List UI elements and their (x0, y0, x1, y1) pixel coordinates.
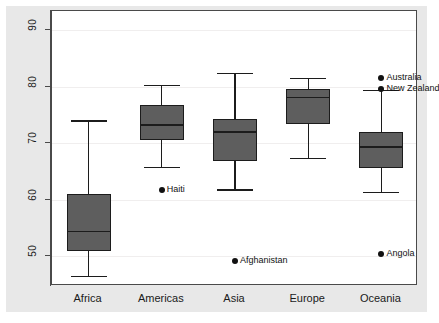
y-axis-tick (45, 255, 50, 256)
median-line (359, 146, 403, 148)
outlier-label-afghanistan: Afghanistan (240, 255, 288, 265)
y-axis-tick-label: 60 (27, 189, 43, 201)
y-axis-tick (45, 29, 50, 30)
y-axis-tick (45, 86, 50, 87)
outlier-label-new-zealand: New Zealand (386, 83, 439, 93)
x-axis-label-oceania: Oceania (340, 292, 420, 304)
y-axis-tick (45, 199, 50, 200)
whisker-cap-lower (363, 192, 399, 193)
box-rect (359, 132, 403, 169)
y-axis-tick-label: 70 (27, 132, 43, 144)
whisker-upper (381, 90, 382, 132)
x-axis-label-africa: Africa (48, 292, 128, 304)
y-axis-tick (45, 142, 50, 143)
outlier-label-angola: Angola (386, 248, 414, 258)
y-axis-tick-label: 80 (27, 76, 43, 88)
x-axis-label-asia: Asia (194, 292, 274, 304)
y-axis-tick-label: 50 (27, 245, 43, 257)
x-axis-label-americas: Americas (121, 292, 201, 304)
outlier-dot-haiti (159, 187, 165, 193)
outlier-label-haiti: Haiti (167, 184, 185, 194)
x-axis-label-europe: Europe (267, 292, 347, 304)
outlier-label-australia: Australia (386, 72, 421, 82)
box-oceania (52, 11, 416, 284)
plot-panel: HaitiAfghanistanAustraliaNew ZealandAngo… (51, 10, 417, 285)
whisker-lower (381, 168, 382, 191)
y-axis-tick-label: 90 (27, 19, 43, 31)
